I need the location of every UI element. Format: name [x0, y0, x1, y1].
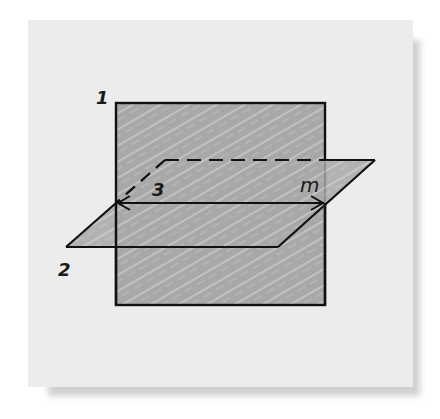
- label-plane-2: 2: [58, 259, 71, 280]
- intersecting-planes-diagram: 1 2 3 m: [0, 0, 440, 419]
- label-plane-1: 1: [96, 87, 109, 108]
- label-line-m: m: [300, 173, 319, 197]
- label-line-3: 3: [152, 179, 165, 200]
